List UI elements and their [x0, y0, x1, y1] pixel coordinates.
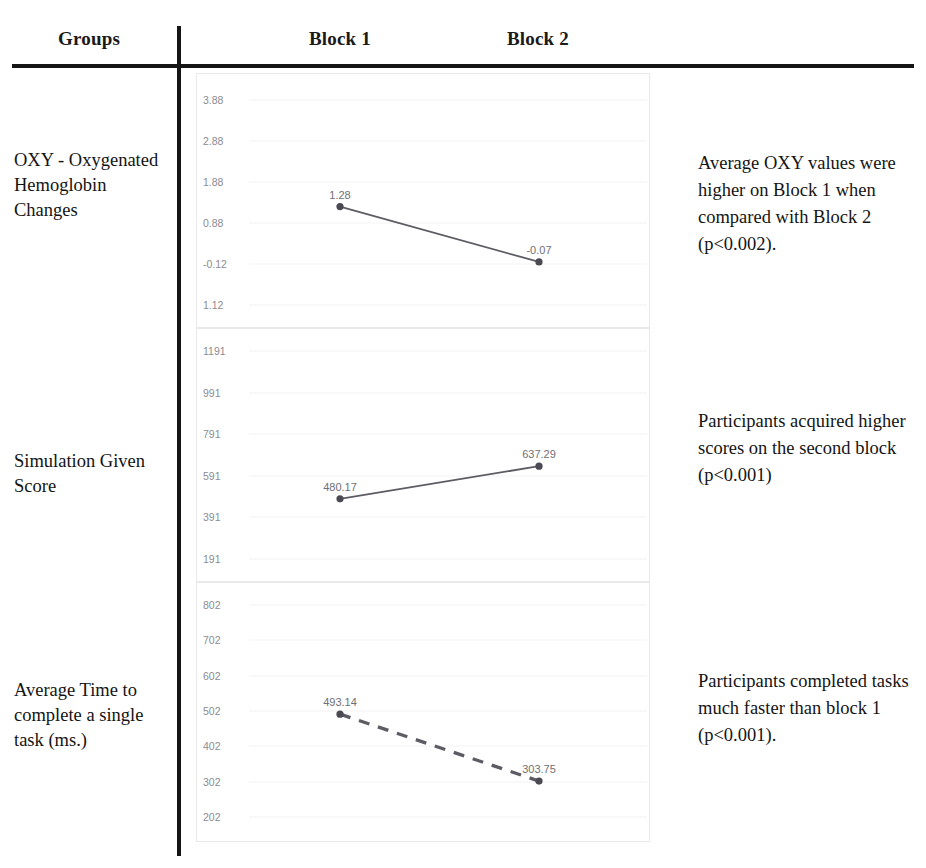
- data-point-marker: [336, 495, 343, 502]
- plot-area: [197, 74, 649, 327]
- row-note-average-time: Participants completed tasks much faster…: [698, 668, 923, 749]
- chart-panel-average-time: 802702602502402302202493.14303.75: [196, 582, 650, 842]
- data-point-marker: [336, 711, 343, 718]
- data-point-marker: [535, 777, 542, 784]
- chart-panel-oxy: 3.882.881.880.88-0.121.121.28-0.07: [196, 73, 650, 328]
- series-line: [340, 207, 539, 262]
- column-header-groups: Groups: [0, 28, 178, 50]
- row-label-simulation-score: Simulation Given Score: [14, 449, 172, 499]
- row-note-simulation-score: Participants acquired higher scores on t…: [698, 408, 923, 489]
- column-header-block-1: Block 1: [280, 28, 400, 50]
- results-table-figure: Groups Block 1 Block 2 OXY - Oxygenated …: [0, 0, 926, 868]
- header-horizontal-rule: [12, 64, 914, 68]
- row-label-oxy: OXY - Oxygenated Hemoglobin Changes: [14, 148, 172, 223]
- column-header-block-2: Block 2: [478, 28, 598, 50]
- row-note-oxy: Average OXY values were higher on Block …: [698, 150, 923, 258]
- series-line: [340, 714, 539, 781]
- data-point-marker: [336, 203, 343, 210]
- data-point-label: 637.29: [522, 448, 556, 460]
- data-point-label: 303.75: [522, 763, 556, 775]
- data-point-label: 480.17: [323, 481, 357, 493]
- data-point-marker: [535, 463, 542, 470]
- series-line: [340, 466, 539, 499]
- data-point-marker: [535, 258, 542, 265]
- plot-area: [197, 329, 649, 581]
- row-label-average-time: Average Time to complete a single task (…: [14, 678, 172, 753]
- plot-area: [197, 583, 649, 841]
- data-point-label: 493.14: [323, 696, 357, 708]
- column-vertical-divider: [177, 26, 181, 856]
- data-point-label: -0.07: [526, 244, 551, 256]
- chart-panel-simulation-score: 1191991791591391191480.17637.29: [196, 328, 650, 582]
- data-point-label: 1.28: [329, 189, 350, 201]
